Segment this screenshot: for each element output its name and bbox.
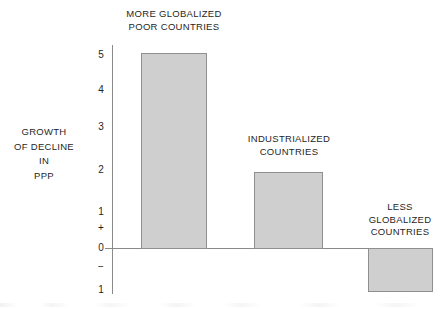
bar-label-line-2: GLOBALIZED xyxy=(356,214,443,227)
bar-label-line-2: COUNTRIES xyxy=(224,146,354,159)
bar-label-less-globalized-countries: LESS GLOBALIZED COUNTRIES xyxy=(356,201,443,239)
y-tick-5: 5 xyxy=(82,50,104,60)
bar-label-line-3: COUNTRIES xyxy=(356,226,443,239)
y-tick-4: 4 xyxy=(82,85,104,95)
bar-label-line-2: POOR COUNTRIES xyxy=(104,21,244,34)
scan-artifact-strip xyxy=(0,303,443,307)
y-axis-title: GROWTH OF DECLINE IN PPP xyxy=(8,125,80,183)
bar-label-line-1: INDUSTRIALIZED xyxy=(224,133,354,146)
y-axis-title-line-1: GROWTH xyxy=(8,125,80,140)
bar-label-industrialized-countries: INDUSTRIALIZED COUNTRIES xyxy=(224,133,354,158)
y-tick-plus: + xyxy=(82,223,104,233)
y-tick-2: 2 xyxy=(82,165,104,175)
y-tick-minus: − xyxy=(82,262,104,272)
y-axis-title-line-2: OF DECLINE xyxy=(8,140,80,155)
bar-less-globalized-countries xyxy=(368,248,433,292)
y-axis-title-line-3: IN xyxy=(8,154,80,169)
bar-industrialized-countries xyxy=(254,172,323,249)
bar-label-line-1: LESS xyxy=(356,201,443,214)
bar-label-more-globalized-poor-countries: MORE GLOBALIZED POOR COUNTRIES xyxy=(104,8,244,33)
y-tick-3: 3 xyxy=(82,122,104,132)
bar-chart: 5 4 3 2 1 + 0 − 1 GROWTH OF DECLINE IN P… xyxy=(0,0,443,309)
y-axis-line xyxy=(112,45,113,294)
y-tick-1: 1 xyxy=(82,207,104,217)
y-axis-title-line-4: PPP xyxy=(8,169,80,184)
y-tick-0: 0 xyxy=(82,243,104,253)
y-tick-neg-1: 1 xyxy=(82,285,104,295)
bar-label-line-1: MORE GLOBALIZED xyxy=(104,8,244,21)
bar-more-globalized-poor-countries xyxy=(141,53,207,249)
